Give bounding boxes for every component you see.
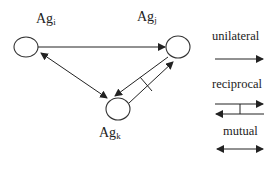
legend-unilateral-label: unilateral (212, 30, 259, 43)
legend-reciprocal-label: reciprocal (212, 78, 262, 91)
node-ag-j (166, 36, 190, 58)
edge-i-k-mutual (41, 53, 107, 98)
label-ag-j-sub: j (154, 15, 157, 25)
legend-mutual-label: mutual (223, 125, 258, 138)
node-ag-k (106, 98, 130, 120)
edge-k-j-reciprocal-bottom (129, 62, 173, 103)
label-ag-i: Agi (36, 12, 56, 27)
label-ag-k-base: Ag (99, 125, 116, 140)
edge-j-k-reciprocal-top (115, 57, 168, 96)
agent-relationship-diagram: Agi Agj Agk unilateral reciprocal mutual (0, 0, 280, 171)
label-ag-k-sub: k (116, 131, 121, 141)
label-ag-i-sub: i (53, 17, 56, 27)
label-ag-i-base: Ag (36, 11, 53, 26)
node-ag-i (14, 37, 38, 57)
label-ag-j: Agj (137, 10, 157, 25)
label-ag-k: Agk (99, 126, 121, 141)
edge-reciprocal-connector (140, 77, 152, 91)
label-ag-j-base: Ag (137, 9, 154, 24)
